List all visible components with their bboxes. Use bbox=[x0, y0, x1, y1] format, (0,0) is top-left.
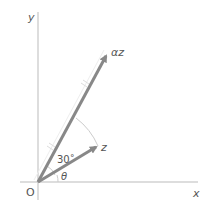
theta-label: θ bbox=[61, 171, 67, 182]
rotation-arc bbox=[76, 118, 98, 146]
x-axis-label: x bbox=[192, 187, 200, 200]
y-axis-label: y bbox=[27, 11, 35, 24]
origin-label: O bbox=[26, 186, 35, 199]
alpha-z-label: αz bbox=[111, 46, 124, 59]
complex-plane-diagram: y x O αz z 30˚ θ bbox=[0, 0, 210, 207]
z-label: z bbox=[100, 141, 107, 154]
rotation-angle-label: 30˚ bbox=[57, 154, 75, 165]
theta-arc bbox=[57, 175, 58, 182]
